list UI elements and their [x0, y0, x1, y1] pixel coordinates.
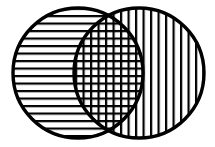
venn-diagram-figure: Two overlapping circles Venn diagram	[0, 0, 215, 147]
venn-diagram-canvas	[0, 0, 215, 147]
